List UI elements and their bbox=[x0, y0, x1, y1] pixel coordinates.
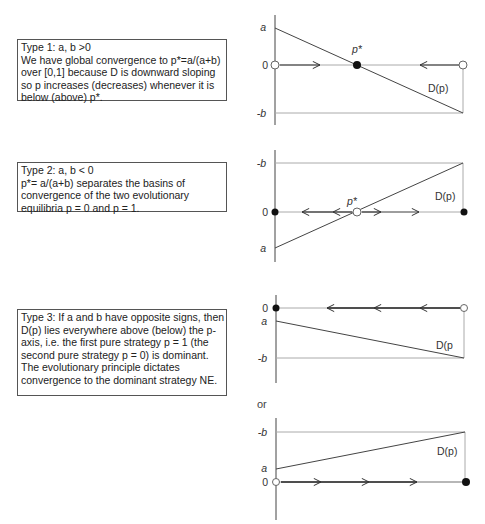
y-label-a: a bbox=[260, 21, 266, 33]
unstable-equilibrium-icon bbox=[353, 208, 361, 216]
open-endpoint-icon bbox=[461, 305, 468, 312]
y-label-zero: 0 bbox=[262, 206, 268, 218]
open-endpoint-icon bbox=[459, 61, 467, 69]
y-label-zero: 0 bbox=[262, 302, 268, 314]
y-label-minus-b: -b bbox=[258, 352, 267, 364]
y-label-a: a bbox=[260, 242, 266, 254]
y-label-a: a bbox=[261, 462, 267, 474]
y-label-minus-b: -b bbox=[257, 157, 266, 169]
curve-label: D(p) bbox=[428, 82, 448, 94]
stable-equilibrium-icon bbox=[353, 61, 361, 69]
curve-label: D(p) bbox=[435, 190, 455, 202]
d-curve bbox=[275, 163, 463, 248]
pstar-label: p* bbox=[351, 43, 363, 55]
phase-diagrams: a 0 -b p* D(p) -b 0 a p* D(p) bbox=[0, 0, 485, 524]
type2-diagram: -b 0 a p* D(p) bbox=[257, 150, 468, 262]
open-endpoint-icon bbox=[273, 479, 280, 486]
stable-endpoint-icon bbox=[461, 209, 468, 216]
type3a-diagram: 0 a -b D(p bbox=[258, 295, 468, 383]
open-endpoint-icon bbox=[271, 61, 279, 69]
y-label-zero: 0 bbox=[262, 476, 268, 488]
stable-endpoint-icon bbox=[462, 478, 470, 486]
type1-diagram: a 0 -b p* D(p) bbox=[257, 15, 467, 125]
curve-label: D(p bbox=[436, 339, 453, 351]
y-label-minus-b: -b bbox=[257, 107, 266, 119]
stable-endpoint-icon bbox=[272, 209, 279, 216]
d-curve bbox=[275, 28, 463, 113]
y-label-minus-b: -b bbox=[258, 426, 267, 438]
stable-endpoint-icon bbox=[273, 305, 280, 312]
y-label-a: a bbox=[261, 315, 267, 327]
y-label-zero: 0 bbox=[262, 59, 268, 71]
curve-label: D(p) bbox=[437, 445, 457, 457]
type3b-diagram: -b a 0 D(p) bbox=[258, 418, 470, 520]
pstar-label: p* bbox=[346, 195, 358, 207]
